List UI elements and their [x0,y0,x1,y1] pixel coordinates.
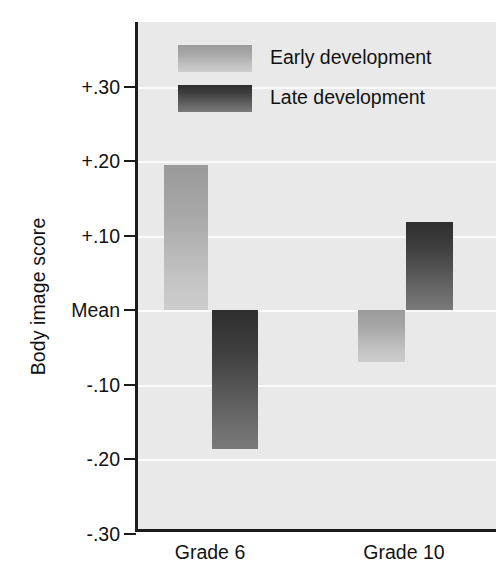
gridline [137,459,496,461]
y-tick-mark [124,235,136,237]
legend-item-late: Late development [178,82,432,114]
gridline [137,310,496,312]
y-tick-label: Mean [14,299,120,322]
legend-swatch-early [178,45,252,72]
bar-grade-10-late [406,222,453,310]
gridline [137,161,496,163]
y-tick-mark [124,160,136,162]
y-axis-line [135,22,138,532]
y-tick-label: -.20 [14,448,120,471]
y-tick-mark [124,309,136,311]
legend-label: Early development [270,48,432,68]
y-tick-label: +.30 [14,76,120,99]
bar-grade-10-early [358,310,405,362]
bar-grade-6-late [212,310,258,449]
x-axis-line [135,529,496,532]
gridline [137,385,496,387]
y-tick-mark [124,86,136,88]
legend-item-early: Early development [178,42,432,74]
y-tick-label: -.30 [14,523,120,546]
legend-label: Late development [270,88,425,108]
y-tick-mark [124,458,136,460]
x-axis-label-grade-6: Grade 6 [130,541,290,564]
y-tick-label: -.10 [14,374,120,397]
bar-grade-6-early [164,165,208,310]
y-tick-mark [124,533,136,535]
y-tick-label: +.20 [14,150,120,173]
legend-swatch-late [178,85,252,112]
chart-legend: Early developmentLate development [178,42,432,122]
y-tick-mark [124,384,136,386]
chart-figure: Body image score +.30+.20+.10Mean-.10-.2… [0,0,496,586]
x-axis-label-grade-10: Grade 10 [324,541,484,564]
y-tick-label: +.10 [14,225,120,248]
